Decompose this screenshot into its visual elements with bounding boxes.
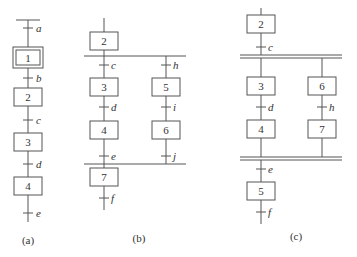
step-6: 6 <box>319 80 325 92</box>
step-3: 3 <box>258 80 264 92</box>
transition-h: h <box>329 101 335 113</box>
step-2: 2 <box>25 91 31 103</box>
step-4: 4 <box>101 124 107 136</box>
step-5: 5 <box>258 185 264 197</box>
transition-d: d <box>36 158 42 170</box>
step-3: 3 <box>25 136 31 148</box>
step-3: 3 <box>101 81 107 93</box>
step-1: 1 <box>25 52 31 64</box>
transition-f: f <box>268 206 273 218</box>
step-5: 5 <box>163 81 169 93</box>
step-7: 7 <box>101 171 107 183</box>
transition-e: e <box>268 163 273 175</box>
caption-b: (b) <box>133 232 146 245</box>
step-2: 2 <box>258 18 264 30</box>
diagram-b: 2 c 3 d 4 e h 5 i 6 j 7 <box>84 18 186 245</box>
transition-b: b <box>36 72 42 84</box>
step-7: 7 <box>319 123 325 135</box>
transition-j: j <box>171 150 176 162</box>
step-6: 6 <box>163 124 169 136</box>
step-2: 2 <box>101 35 107 47</box>
transition-c: c <box>36 114 41 126</box>
transition-e: e <box>111 150 116 162</box>
transition-i: i <box>173 101 176 113</box>
step-4: 4 <box>25 180 31 192</box>
caption-c: (c) <box>290 230 303 243</box>
diagram-c: 2 c 3 d 4 6 h 7 e 5 <box>240 8 342 243</box>
diagram-a: a 1 b 2 c 3 d 4 e (a) <box>13 20 43 247</box>
transition-f: f <box>111 192 116 204</box>
transition-d: d <box>111 101 117 113</box>
transition-c: c <box>111 59 116 71</box>
transition-c: c <box>268 41 273 53</box>
step-4: 4 <box>258 123 264 135</box>
transition-e: e <box>36 207 41 219</box>
transition-a: a <box>36 22 42 34</box>
transition-d: d <box>268 101 274 113</box>
sfc-diagrams: a 1 b 2 c 3 d 4 e (a) 2 <box>0 0 357 257</box>
caption-a: (a) <box>22 234 35 247</box>
transition-h: h <box>173 59 179 71</box>
